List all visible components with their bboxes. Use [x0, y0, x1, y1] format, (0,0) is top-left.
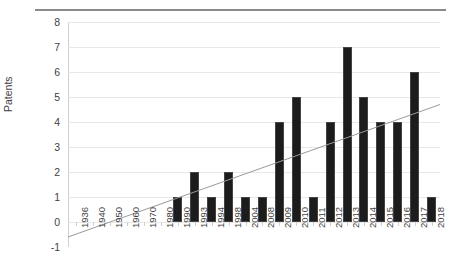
x-tick-mark — [212, 222, 213, 226]
x-tick-label: 1960 — [131, 207, 140, 228]
x-tick-mark — [415, 222, 416, 226]
x-tick-label: 1998 — [233, 207, 242, 228]
x-tick-mark — [127, 222, 128, 226]
x-tick-label: 1936 — [80, 207, 89, 228]
x-tick-label: 1970 — [148, 207, 157, 228]
x-tick-mark — [76, 222, 77, 226]
x-tick-mark — [279, 222, 280, 226]
x-tick-label: 2017 — [419, 207, 428, 228]
x-tick-label: 2018 — [436, 207, 445, 228]
y-axis-tick-labels: 876543210-1 — [30, 0, 60, 269]
x-tick-mark — [144, 222, 145, 226]
x-tick-mark — [364, 222, 365, 226]
x-tick-label: 1950 — [114, 207, 123, 228]
x-tick-label: 2012 — [334, 207, 343, 228]
x-tick-mark — [195, 222, 196, 226]
y-tick-label: 4 — [32, 117, 60, 127]
x-tick-label: 2016 — [402, 207, 411, 228]
x-tick-label: 1940 — [97, 207, 106, 228]
x-tick-label: 2011 — [317, 208, 326, 228]
x-tick-mark — [347, 222, 348, 226]
y-tick-label: 2 — [32, 167, 60, 177]
x-tick-mark — [246, 222, 247, 226]
x-tick-mark — [178, 222, 179, 226]
x-tick-label: 1980 — [165, 207, 174, 228]
x-tick-label: 2010 — [300, 207, 309, 228]
patents-bar-chart: Patents 876543210-1 19361940195019601970… — [0, 0, 453, 269]
x-tick-mark — [262, 222, 263, 226]
x-tick-mark — [330, 222, 331, 226]
x-tick-mark — [296, 222, 297, 226]
x-tick-mark — [313, 222, 314, 226]
y-tick-label: 6 — [32, 67, 60, 77]
x-tick-label: 1994 — [216, 207, 225, 228]
x-tick-mark — [229, 222, 230, 226]
y-axis-title: Patents — [2, 76, 14, 112]
top-divider-rule — [35, 9, 446, 11]
y-tick-label: 1 — [32, 192, 60, 202]
x-tick-mark — [93, 222, 94, 226]
x-tick-label: 2014 — [368, 207, 377, 228]
y-tick-label: 7 — [32, 42, 60, 52]
y-tick-label: -1 — [32, 242, 60, 252]
y-tick-label: 0 — [32, 217, 60, 227]
x-tick-mark — [398, 222, 399, 226]
x-tick-mark — [110, 222, 111, 226]
y-tick-label: 5 — [32, 92, 60, 102]
x-tick-label: 2009 — [283, 207, 292, 228]
x-tick-label: 1990 — [182, 207, 191, 228]
x-tick-label: 2013 — [351, 207, 360, 228]
x-tick-label: 2008 — [266, 207, 275, 228]
x-axis: 1936194019501960197019801990199319941998… — [68, 222, 440, 269]
y-tick-label: 3 — [32, 142, 60, 152]
x-tick-label: 1993 — [199, 207, 208, 228]
y-tick-label: 8 — [32, 17, 60, 27]
x-tick-mark — [381, 222, 382, 226]
x-tick-label: 2004 — [250, 207, 259, 228]
x-tick-mark — [161, 222, 162, 226]
x-tick-mark — [432, 222, 433, 226]
x-tick-label: 2015 — [385, 207, 394, 228]
